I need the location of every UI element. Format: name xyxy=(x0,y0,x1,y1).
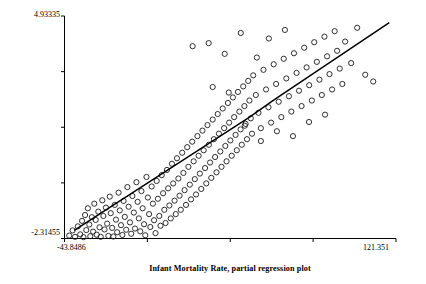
axis-ticks xyxy=(61,16,396,242)
partial-regression-plot: Total Fertility Rate, partial regression… xyxy=(0,0,426,284)
regression-line xyxy=(74,23,389,231)
plot-canvas xyxy=(0,0,426,284)
data-points xyxy=(67,25,376,240)
